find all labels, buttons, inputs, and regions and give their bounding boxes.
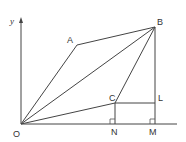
segment-CB [115,27,155,103]
right-angle-marker-N [110,119,115,124]
segment-OA [21,45,77,124]
point-label-B: B [157,17,163,27]
point-label-N: N [111,127,118,137]
right-angle-marker-M [150,119,155,124]
geometry-diagram: y O A B C L N M [0,0,186,142]
point-label-A: A [67,35,73,45]
point-label-L: L [158,93,163,103]
point-label-C: C [109,93,116,103]
y-axis-arrow-icon [19,17,23,23]
point-label-M: M [149,127,157,137]
point-label-O: O [13,129,20,139]
y-axis-label: y [9,16,14,26]
